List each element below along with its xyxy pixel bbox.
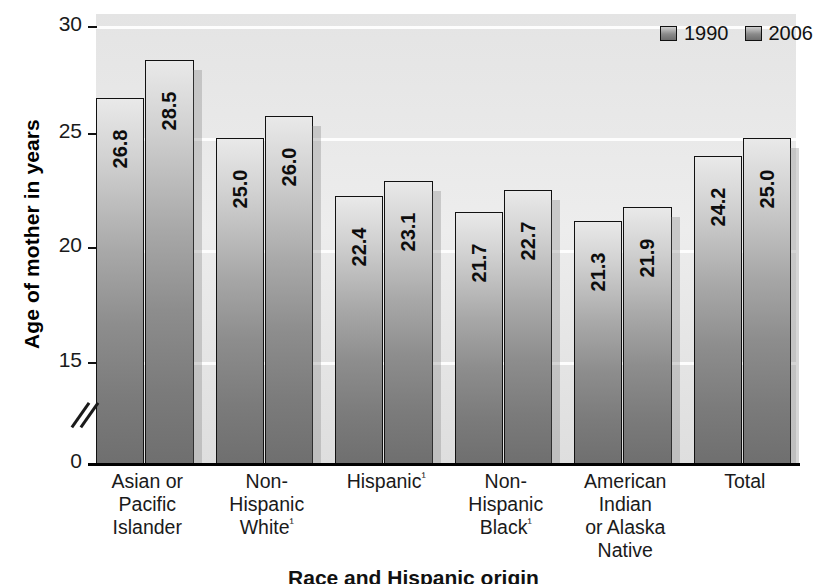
bar-value-label: 26.8 xyxy=(109,129,132,168)
bar-value-label: 25.0 xyxy=(228,170,251,209)
axis-break-icon xyxy=(72,398,106,432)
bar-group: 21.321.9 xyxy=(574,14,677,464)
bar[interactable]: 24.2 xyxy=(694,156,742,464)
bar-value-container: 28.5 xyxy=(146,67,192,157)
bar-value-label: 21.3 xyxy=(587,252,610,291)
bar-group: 26.828.5 xyxy=(96,14,199,464)
bar-group: 24.225.0 xyxy=(694,14,797,464)
bar-value-container: 25.0 xyxy=(744,145,790,235)
legend-label: 2006 xyxy=(769,22,814,45)
bar-value-label: 28.5 xyxy=(158,91,181,130)
bar-chart: Age of mother in years 26.828.525.026.02… xyxy=(0,0,827,584)
bar[interactable]: 21.3 xyxy=(574,221,622,464)
bar[interactable]: 23.1 xyxy=(384,181,432,464)
bar-value-label: 22.4 xyxy=(348,228,371,267)
bar-value-label: 23.1 xyxy=(397,212,420,251)
bar-value-container: 22.7 xyxy=(505,197,551,287)
legend: 1990 2006 xyxy=(660,22,813,45)
bar-value-label: 24.2 xyxy=(706,187,729,226)
bar-value-container: 26.0 xyxy=(266,123,312,213)
bar-group: 21.722.7 xyxy=(455,14,558,464)
bar-value-container: 23.1 xyxy=(385,188,431,278)
bar-value-label: 21.7 xyxy=(467,243,490,282)
bar[interactable]: 21.7 xyxy=(455,212,503,464)
bar[interactable]: 25.0 xyxy=(216,138,264,464)
legend-swatch-icon xyxy=(745,26,762,41)
legend-item-2006: 2006 xyxy=(745,22,814,45)
y-axis-tick-mark xyxy=(88,26,97,28)
page-top-margin xyxy=(0,0,827,12)
y-axis-tick-label: 20 xyxy=(42,233,82,257)
bar[interactable]: 22.4 xyxy=(335,196,383,464)
bar[interactable]: 25.0 xyxy=(743,138,791,464)
bar-value-container: 26.8 xyxy=(97,105,143,195)
bar[interactable]: 21.9 xyxy=(623,207,671,464)
bar-value-label: 21.9 xyxy=(636,239,659,278)
bar-value-label: 22.7 xyxy=(516,221,539,260)
bar-value-label: 25.0 xyxy=(755,170,778,209)
legend-swatch-icon xyxy=(660,26,677,41)
x-axis-labels: Asian orPacificIslanderNon-HispanicWhite… xyxy=(96,470,796,560)
bar[interactable]: 26.0 xyxy=(265,116,313,464)
y-axis-tick-label: 30 xyxy=(42,12,82,36)
legend-item-1990: 1990 xyxy=(660,22,729,45)
y-axis-tick-mark xyxy=(88,362,97,364)
plot-area: 26.828.525.026.022.423.121.722.721.321.9… xyxy=(96,14,796,464)
bar-group: 22.423.1 xyxy=(335,14,438,464)
y-axis-tick-label: 15 xyxy=(42,348,82,372)
bar-value-container: 21.9 xyxy=(624,214,670,304)
x-axis-baseline xyxy=(88,463,800,466)
bar-value-container: 21.7 xyxy=(456,219,502,309)
y-axis-tick-label: 25 xyxy=(42,119,82,143)
y-axis-title: Age of mother in years xyxy=(20,24,44,444)
bar-group: 25.026.0 xyxy=(216,14,319,464)
legend-label: 1990 xyxy=(684,22,729,45)
bar-value-label: 26.0 xyxy=(277,147,300,186)
bar-value-container: 21.3 xyxy=(575,228,621,318)
y-axis-tick-mark xyxy=(88,247,97,249)
y-axis-tick-mark xyxy=(88,133,97,135)
x-axis-title: Race and Hispanic origin xyxy=(0,566,827,584)
bar[interactable]: 22.7 xyxy=(504,190,552,464)
bar-value-container: 24.2 xyxy=(695,163,741,253)
bar[interactable]: 28.5 xyxy=(145,60,193,464)
bar-value-container: 25.0 xyxy=(217,145,263,235)
bar-value-container: 22.4 xyxy=(336,203,382,293)
x-axis-category-label: Total xyxy=(670,470,820,493)
